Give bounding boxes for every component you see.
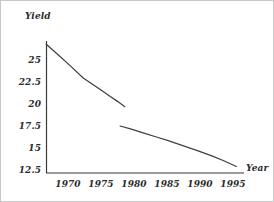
- y-tick-label-1: 22.5: [7, 77, 41, 87]
- x-tick-label-0: 1970: [51, 179, 85, 189]
- y-axis-title: Yield: [25, 11, 51, 21]
- y-tick-label-3: 17.5: [7, 121, 41, 131]
- data-lines-group: [46, 44, 236, 166]
- y-tick-label-5: 12.5: [7, 165, 41, 175]
- x-tick-label-5: 1995: [216, 179, 250, 189]
- chart-canvas: [1, 1, 274, 202]
- y-tick-label-2: 20: [7, 99, 41, 109]
- y-tick-label-0: 25: [7, 55, 41, 65]
- y-tick-label-4: 15: [7, 143, 41, 153]
- x-tick-label-3: 1985: [150, 179, 184, 189]
- x-axis-title: Year: [246, 163, 268, 173]
- data-line-segment-1: [46, 44, 125, 106]
- x-tick-label-1: 1975: [84, 179, 118, 189]
- axes-group: [46, 41, 244, 173]
- x-tick-label-2: 1980: [117, 179, 151, 189]
- chart-figure: Yield Year 25 22.5 20 17.5 15 12.5 1970 …: [0, 0, 274, 202]
- data-line-segment-2: [120, 126, 236, 166]
- x-tick-label-4: 1990: [183, 179, 217, 189]
